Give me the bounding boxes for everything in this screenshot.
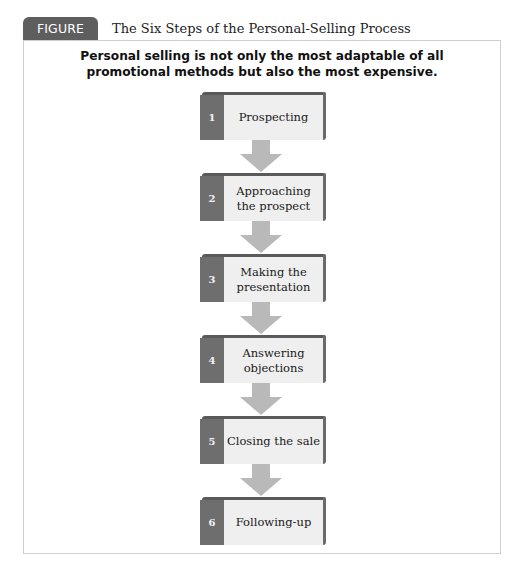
step-number: 3 — [200, 257, 224, 302]
step-following-up: 6 Following-up — [200, 497, 326, 545]
step-right-edge — [323, 335, 326, 383]
step-approaching-the-prospect: 2 Approaching the prospect — [200, 173, 326, 221]
figure-subtitle: Personal selling is not only the most ad… — [40, 48, 484, 80]
down-arrow-icon — [240, 140, 282, 172]
down-arrow-icon — [240, 302, 282, 334]
step-right-edge — [323, 497, 326, 545]
step-label: Prospecting — [224, 95, 323, 140]
step-right-edge — [323, 173, 326, 221]
step-label: Closing the sale — [224, 419, 323, 464]
step-right-edge — [323, 416, 326, 464]
step-number: 6 — [200, 500, 224, 545]
step-number: 2 — [200, 176, 224, 221]
step-number: 1 — [200, 95, 224, 140]
figure-title: The Six Steps of the Personal-Selling Pr… — [112, 19, 411, 39]
step-right-edge — [323, 254, 326, 302]
step-label: Answering objections — [224, 338, 323, 383]
down-arrow-icon — [240, 221, 282, 253]
step-label: Approaching the prospect — [224, 176, 323, 221]
step-prospecting: 1 Prospecting — [200, 92, 326, 140]
step-closing-the-sale: 5 Closing the sale — [200, 416, 326, 464]
down-arrow-icon — [240, 464, 282, 496]
step-number: 5 — [200, 419, 224, 464]
step-number: 4 — [200, 338, 224, 383]
step-answering-objections: 4 Answering objections — [200, 335, 326, 383]
step-right-edge — [323, 92, 326, 140]
step-label: Following-up — [224, 500, 323, 545]
step-label: Making the presentation — [224, 257, 323, 302]
figure-label-tab: FIGURE 15.4 — [23, 17, 98, 41]
down-arrow-icon — [240, 383, 282, 415]
step-making-the-presentation: 3 Making the presentation — [200, 254, 326, 302]
